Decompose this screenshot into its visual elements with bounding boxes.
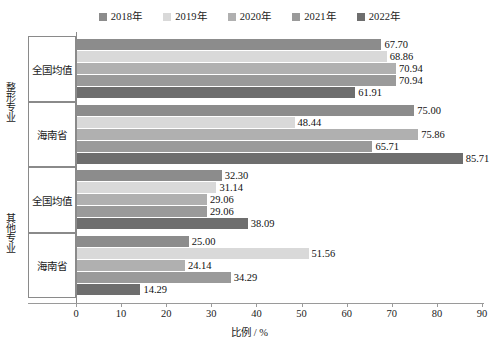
bar xyxy=(76,39,381,50)
bar xyxy=(76,272,231,283)
bar-value-label: 14.29 xyxy=(143,284,167,295)
bar-value-label: 61.91 xyxy=(358,87,382,98)
bar-value-label: 38.09 xyxy=(251,218,275,229)
bar-value-label: 29.06 xyxy=(210,206,234,217)
bar-value-label: 67.70 xyxy=(384,39,408,50)
chart-legend: 2018年 2019年 2020年 2021年 2022年 xyxy=(0,12,499,23)
bar xyxy=(76,236,189,247)
bar xyxy=(76,194,207,205)
bar xyxy=(76,170,222,181)
group-label-other: 其他专业 xyxy=(2,167,18,298)
x-tick-label-0: 0 xyxy=(73,308,78,319)
bar xyxy=(76,260,185,271)
x-tick-label-40: 40 xyxy=(251,308,262,319)
category-label-3: 海南省 xyxy=(28,233,76,298)
bar-value-label: 70.94 xyxy=(399,63,423,74)
x-tick-30 xyxy=(211,303,212,307)
legend-label-2018: 2018年 xyxy=(111,12,143,23)
legend-swatch-2019 xyxy=(163,13,171,21)
category-label-2: 全国均值 xyxy=(28,167,76,233)
bar xyxy=(76,218,248,229)
legend-swatch-2020 xyxy=(228,13,236,21)
legend-item-2021: 2021年 xyxy=(292,12,336,23)
bar xyxy=(76,182,216,193)
bar-chart: 2018年 2019年 2020年 2021年 2022年 整形专业 其他专业 … xyxy=(0,0,499,347)
bar-value-label: 51.56 xyxy=(312,248,336,259)
y-axis-spine xyxy=(76,32,77,303)
bar-value-label: 48.44 xyxy=(298,117,322,128)
legend-item-2018: 2018年 xyxy=(99,12,143,23)
bar-value-label: 75.86 xyxy=(421,129,445,140)
legend-item-2019: 2019年 xyxy=(163,12,207,23)
bar-value-label: 34.29 xyxy=(234,272,258,283)
x-tick-0 xyxy=(76,303,77,307)
x-tick-70 xyxy=(392,303,393,307)
bar xyxy=(76,248,309,259)
x-tick-label-50: 50 xyxy=(296,308,307,319)
x-tick-90 xyxy=(482,303,483,307)
legend-item-2020: 2020年 xyxy=(228,12,272,23)
plot-area: 整形专业 其他专业 全国均值 海南省 全国均值 海南省 67.7075.0032… xyxy=(0,32,499,307)
bar xyxy=(76,129,418,140)
x-tick-10 xyxy=(121,303,122,307)
x-axis-title: 比例 / % xyxy=(0,324,499,339)
group-label-integral: 整形专业 xyxy=(2,36,18,167)
bar xyxy=(76,105,414,116)
legend-label-2019: 2019年 xyxy=(175,12,207,23)
bar xyxy=(76,206,207,217)
bar-value-label: 65.71 xyxy=(375,141,399,152)
x-tick-label-30: 30 xyxy=(206,308,217,319)
x-tick-label-90: 90 xyxy=(477,308,488,319)
x-tick-label-20: 20 xyxy=(161,308,172,319)
bar-value-label: 31.14 xyxy=(219,182,243,193)
bar xyxy=(76,51,387,62)
x-tick-40 xyxy=(256,303,257,307)
x-tick-label-70: 70 xyxy=(387,308,398,319)
x-tick-20 xyxy=(166,303,167,307)
x-tick-label-80: 80 xyxy=(432,308,443,319)
bar xyxy=(76,75,396,86)
x-tick-label-10: 10 xyxy=(116,308,127,319)
bar xyxy=(76,63,396,74)
bar-value-label: 70.94 xyxy=(399,75,423,86)
legend-swatch-2022 xyxy=(357,13,365,21)
x-tick-50 xyxy=(302,303,303,307)
bar-value-label: 68.86 xyxy=(390,51,414,62)
x-tick-80 xyxy=(437,303,438,307)
bar-value-label: 24.14 xyxy=(188,260,212,271)
legend-label-2021: 2021年 xyxy=(304,12,336,23)
category-label-0: 全国均值 xyxy=(28,36,76,102)
bar xyxy=(76,153,463,164)
legend-label-2022: 2022年 xyxy=(369,12,401,23)
legend-swatch-2021 xyxy=(292,13,300,21)
legend-swatch-2018 xyxy=(99,13,107,21)
bar xyxy=(76,141,372,152)
bar xyxy=(76,87,355,98)
bar-value-label: 29.06 xyxy=(210,194,234,205)
x-tick-label-60: 60 xyxy=(341,308,352,319)
x-tick-60 xyxy=(347,303,348,307)
bar-value-label: 75.00 xyxy=(417,105,441,116)
bar-value-label: 85.71 xyxy=(466,153,490,164)
bar-value-label: 32.30 xyxy=(225,170,249,181)
bar xyxy=(76,117,295,128)
bar-value-label: 25.00 xyxy=(192,236,216,247)
bar xyxy=(76,284,140,295)
legend-label-2020: 2020年 xyxy=(240,12,272,23)
legend-item-2022: 2022年 xyxy=(357,12,401,23)
category-label-1: 海南省 xyxy=(28,102,76,167)
